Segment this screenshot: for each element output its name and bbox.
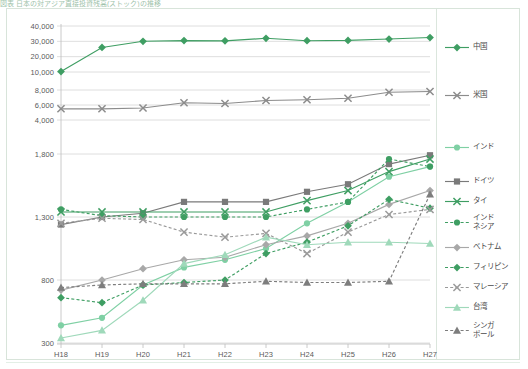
y-axis-tick-label: 10,000 — [14, 68, 54, 77]
data-point-marker — [98, 299, 106, 307]
x-marker-icon — [444, 90, 470, 101]
data-point-marker — [386, 156, 392, 162]
triangle-marker-icon — [444, 325, 470, 336]
x-axis-tick-label: H19 — [82, 350, 122, 359]
legend-item-china[interactable]: 中国 — [444, 42, 487, 53]
data-point-marker — [304, 189, 310, 195]
circle-marker-icon — [444, 217, 470, 228]
data-point-marker — [426, 34, 434, 42]
y-axis-tick-label: 800 — [14, 276, 54, 285]
series-line — [61, 237, 430, 338]
series-line — [61, 191, 430, 291]
data-point-marker — [385, 277, 393, 284]
legend-item-label: 米国 — [473, 91, 487, 100]
data-point-marker — [454, 144, 460, 150]
data-point-marker — [453, 44, 461, 52]
series-line — [61, 92, 430, 109]
legend-item-label: フィリピン — [473, 263, 508, 272]
data-point-marker — [344, 37, 352, 45]
data-point-marker — [262, 250, 270, 258]
series-シンガポール — [57, 190, 434, 290]
series-中国 — [57, 34, 434, 76]
y-axis-tick-label: 8,000 — [14, 86, 54, 95]
series-米国 — [57, 88, 433, 112]
y-axis-tick-label: 30,000 — [14, 37, 54, 46]
y-axis-tick-label: 300 — [14, 339, 54, 348]
legend-item-label: インド ネシア — [473, 214, 494, 231]
y-axis-tick-label: 1,800 — [14, 150, 54, 159]
diamond-marker-icon — [444, 242, 470, 253]
data-point-marker — [454, 219, 460, 225]
data-point-marker — [262, 277, 270, 284]
data-point-marker — [345, 181, 351, 187]
x-axis-tick-label: H21 — [164, 350, 204, 359]
y-axis-tick-label: 1,300 — [14, 213, 54, 222]
legend-item-taiwan[interactable]: 台湾 — [444, 302, 487, 313]
y-axis-tick-label: 6,000 — [14, 101, 54, 110]
chart-legend: 中国米国インドドイツタイインド ネシアベトナムフィリピンマレーシア台湾シンガ ポ… — [444, 10, 528, 360]
data-point-marker — [304, 220, 310, 226]
data-point-marker — [263, 199, 269, 205]
x-axis-tick-label: H24 — [287, 350, 327, 359]
legend-item-label: 台湾 — [473, 303, 487, 312]
data-point-marker — [303, 37, 311, 45]
legend-item-label: ドイツ — [473, 177, 494, 186]
y-axis-tick-label: 4,000 — [14, 116, 54, 125]
legend-item-label: ベトナム — [473, 243, 501, 252]
x-marker-icon — [444, 196, 470, 207]
legend-item-label: シンガ ポール — [473, 322, 494, 339]
legend-item-philippines[interactable]: フィリピン — [444, 262, 508, 273]
data-point-marker — [222, 214, 228, 220]
data-point-marker — [263, 214, 269, 220]
data-point-marker — [181, 199, 187, 205]
data-point-marker — [139, 37, 147, 45]
legend-item-vietnam[interactable]: ベトナム — [444, 242, 501, 253]
legend-item-germany[interactable]: ドイツ — [444, 176, 494, 187]
series-line — [61, 38, 430, 72]
y-axis-tick-label: 20,000 — [14, 52, 54, 61]
data-point-marker — [303, 250, 310, 257]
data-point-marker — [181, 214, 187, 220]
x-axis-tick-label: H25 — [328, 350, 368, 359]
data-point-marker — [99, 315, 105, 321]
data-point-marker — [385, 195, 393, 203]
y-axis-tick-label: 40,000 — [14, 22, 54, 31]
legend-item-india[interactable]: インド — [444, 142, 494, 153]
series-line — [61, 155, 430, 224]
data-point-marker — [221, 37, 229, 45]
legend-item-malaysia[interactable]: マレーシア — [444, 282, 508, 293]
data-point-marker — [221, 251, 229, 258]
legend-item-thailand[interactable]: タイ — [444, 196, 487, 207]
data-point-marker — [58, 206, 64, 212]
diamond-marker-icon — [444, 262, 470, 273]
data-point-marker — [385, 35, 393, 43]
x-axis-tick-label: H18 — [41, 350, 81, 359]
legend-item-indonesia[interactable]: インド ネシア — [444, 214, 494, 231]
circle-marker-icon — [444, 142, 470, 153]
data-point-marker — [344, 278, 352, 285]
x-axis-tick-label: H23 — [246, 350, 286, 359]
data-point-marker — [453, 284, 460, 291]
x-axis-tick-label: H22 — [205, 350, 245, 359]
legend-item-label: タイ — [473, 197, 487, 206]
data-point-marker — [303, 278, 311, 285]
data-point-marker — [454, 178, 460, 184]
x-axis-tick-label: H26 — [369, 350, 409, 359]
data-point-marker — [427, 164, 433, 170]
data-point-marker — [57, 294, 65, 302]
series-マレーシア — [57, 206, 433, 257]
data-point-marker — [453, 264, 461, 272]
data-point-marker — [426, 204, 434, 212]
data-point-marker — [222, 199, 228, 205]
data-point-marker — [180, 37, 188, 45]
square-marker-icon — [444, 176, 470, 187]
triangle-marker-icon — [444, 302, 470, 313]
data-point-marker — [345, 199, 351, 205]
legend-item-label: インド — [473, 143, 494, 152]
legend-item-label: マレーシア — [473, 283, 508, 292]
legend-item-singapore[interactable]: シンガ ポール — [444, 322, 494, 339]
x-axis-tick-label: H20 — [123, 350, 163, 359]
legend-item-usa[interactable]: 米国 — [444, 90, 487, 101]
data-point-marker — [98, 44, 106, 52]
data-point-marker — [453, 244, 461, 252]
